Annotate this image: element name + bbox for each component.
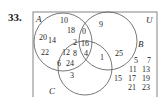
region-value: 16 <box>81 39 89 48</box>
outside-value: 13 <box>142 65 150 74</box>
outside-value: 21 <box>128 83 136 92</box>
label-a: A <box>35 14 42 24</box>
region-value: 0 <box>82 27 86 36</box>
region-value: 14 <box>48 36 56 45</box>
region-value: 18 <box>67 26 75 35</box>
region-value: 10 <box>60 16 68 25</box>
region-value: 22 <box>41 48 49 57</box>
region-value: 8 <box>73 49 77 58</box>
universal-set-rect <box>33 12 157 97</box>
region-value: 20 <box>39 33 47 42</box>
region-value: 3 <box>70 71 74 80</box>
outside-value: 23 <box>142 83 150 92</box>
outside-value: 7 <box>147 56 151 65</box>
label-b: B <box>138 39 144 49</box>
region-value: 1 <box>100 53 104 62</box>
outside-value: 17 <box>128 74 136 83</box>
region-value: 12 <box>62 48 70 57</box>
outside-value: 15 <box>114 74 122 83</box>
region-value: 24 <box>66 59 74 68</box>
region-value: 6 <box>57 59 61 68</box>
outside-value: 5 <box>134 56 138 65</box>
region-value: 2 <box>73 38 77 47</box>
label-u: U <box>146 15 153 25</box>
venn-diagram: A U B C 10 18 20 14 22 0 2 12 8 6 24 16 … <box>0 0 165 97</box>
region-value: 4 <box>84 49 88 58</box>
outside-value: 19 <box>142 74 150 83</box>
outside-value: 11 <box>129 65 137 74</box>
region-value: 9 <box>99 20 103 29</box>
label-c: C <box>49 86 56 96</box>
region-value: 25 <box>115 49 123 58</box>
